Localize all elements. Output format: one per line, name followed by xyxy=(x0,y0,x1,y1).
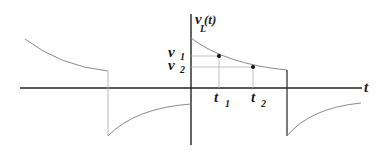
time-t2-sub: 2 xyxy=(260,98,266,109)
time-t1-sub: 1 xyxy=(225,98,230,109)
inductor-voltage-diagram: v (t) L t v 1 v 2 t 1 t 2 xyxy=(0,0,389,150)
curve-positive-main xyxy=(191,38,287,70)
point-t2-v2 xyxy=(251,65,255,69)
x-axis-label: t xyxy=(364,79,369,95)
diagram-svg: v (t) L t v 1 v 2 t 1 t 2 xyxy=(0,0,389,150)
time-t1-main: t xyxy=(214,89,219,105)
level-v2-main: v xyxy=(168,57,175,73)
y-axis-label-sub: L xyxy=(199,23,206,34)
point-t1-v1 xyxy=(217,54,221,58)
curve-positive-left xyxy=(25,39,108,71)
time-t2-main: t xyxy=(251,89,256,105)
curve-negative-right xyxy=(287,103,361,136)
curve-negative-left xyxy=(108,104,191,136)
level-v2-sub: 2 xyxy=(179,64,185,75)
level-v1-sub: 1 xyxy=(180,51,185,62)
